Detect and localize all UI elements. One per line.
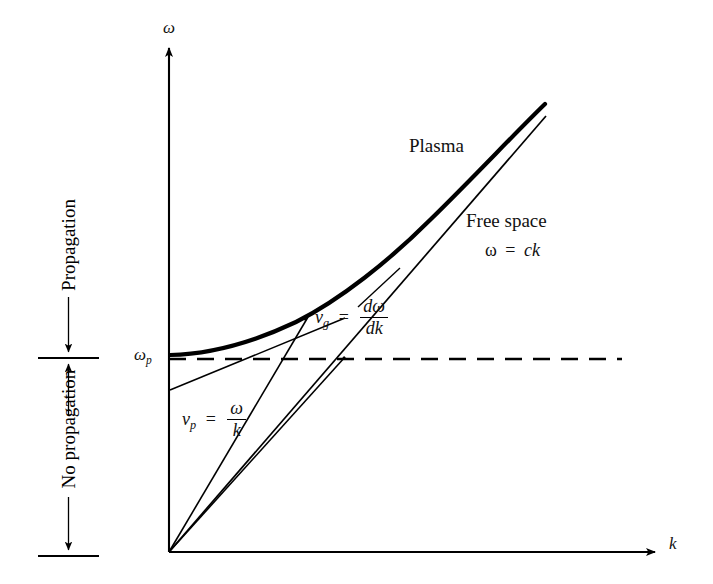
dispersion-diagram-svg — [0, 0, 713, 584]
free-space-curve-label: Free space — [466, 210, 547, 232]
vp-denominator: k — [227, 420, 246, 440]
x-axis-label: k — [669, 534, 677, 554]
region-label-propagation: Propagation — [58, 175, 80, 315]
vp-symbol: v — [182, 409, 190, 429]
vg-fraction: dω dk — [360, 297, 388, 338]
plasma-curve-label: Plasma — [409, 135, 464, 157]
y-axis-label: ω — [163, 18, 175, 38]
vp-numerator: ω — [227, 399, 246, 420]
figure-canvas: ω k ωp Plasma Free space ω = ck vg = dω … — [0, 0, 713, 584]
vp-fraction: ω k — [227, 399, 246, 440]
cutoff-frequency-label: ωp — [134, 345, 152, 367]
axes-group — [169, 48, 655, 552]
group-velocity-equation: vg = dω dk — [315, 298, 390, 339]
vp-subscript: p — [190, 418, 196, 432]
free-space-eq-lhs: ω — [485, 240, 497, 260]
vg-numerator: dω — [360, 297, 388, 318]
vg-symbol: v — [315, 307, 323, 327]
vg-eq-sign: = — [339, 307, 349, 327]
tangent-point-marker — [304, 318, 307, 321]
free-space-eq-rhs: ck — [524, 240, 540, 260]
vp-eq-sign: = — [206, 409, 216, 429]
free-space-equation: ω = ck — [485, 240, 540, 261]
vg-denominator: dk — [360, 318, 388, 338]
phase-velocity-equation: vp = ω k — [182, 400, 248, 441]
free-space-eq-sign: = — [505, 240, 515, 260]
phase-point-marker — [343, 357, 346, 360]
cutoff-subscript: p — [146, 354, 152, 367]
vg-subscript: g — [323, 316, 329, 330]
region-label-no-propagation: No propagation — [58, 342, 80, 516]
